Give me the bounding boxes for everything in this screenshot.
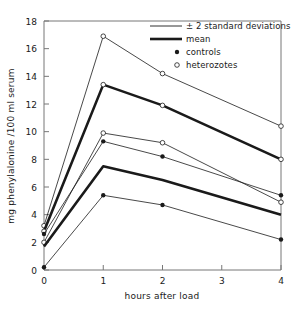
legend-open-circle-icon [175, 63, 180, 68]
x-tick-label: 2 [160, 276, 166, 286]
marker-filled-dot [101, 139, 105, 143]
marker-filled-dot [42, 265, 46, 269]
marker-open-circle [101, 131, 106, 136]
y-tick-label: 6 [31, 183, 37, 193]
marker-open-circle [160, 71, 165, 76]
marker-filled-dot [279, 237, 283, 241]
chart-figure: 024681012141618 01234 ± 2 standard devia… [0, 0, 292, 314]
legend-item-label: controls [186, 47, 221, 57]
y-axis-label: mg phenylalonine /100 ml serum [6, 68, 16, 223]
y-tick-label: 4 [31, 210, 37, 220]
y-tick-label: 8 [31, 155, 37, 165]
legend-item-label: heterozotes [186, 60, 238, 70]
marker-open-circle [101, 82, 106, 87]
marker-filled-dot [42, 232, 46, 236]
legend-item-label: mean [186, 34, 211, 44]
x-tick-label: 0 [41, 276, 47, 286]
marker-open-circle [101, 34, 106, 39]
x-tick-label: 4 [278, 276, 284, 286]
y-tick-label: 0 [31, 266, 37, 276]
marker-open-circle [160, 103, 165, 108]
y-tick-label: 18 [26, 17, 38, 27]
marker-open-circle [279, 200, 284, 205]
x-axis-label: hours after load [125, 291, 200, 301]
x-tick-label: 3 [219, 276, 225, 286]
x-tick-label: 1 [100, 276, 106, 286]
marker-open-circle [279, 124, 284, 129]
y-tick-label: 14 [26, 72, 38, 82]
y-tick-label: 10 [26, 127, 38, 137]
marker-open-circle [160, 140, 165, 145]
marker-filled-dot [160, 203, 164, 207]
marker-filled-dot [160, 154, 164, 158]
legend-filled-dot-icon [175, 50, 179, 54]
phenylalanine-load-line-chart: 024681012141618 01234 ± 2 standard devia… [0, 0, 292, 314]
marker-filled-dot [101, 193, 105, 197]
y-tick-label: 16 [26, 44, 38, 54]
y-tick-label: 12 [26, 100, 37, 110]
legend-item-label: ± 2 standard deviations [186, 21, 291, 31]
marker-filled-dot [279, 193, 283, 197]
marker-open-circle [279, 157, 284, 162]
y-tick-label: 2 [31, 238, 37, 248]
